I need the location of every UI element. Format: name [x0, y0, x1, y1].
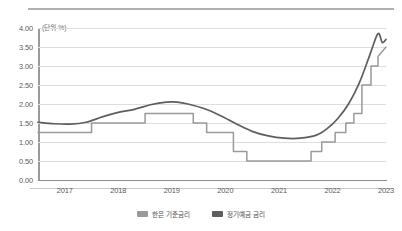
x-tick-label: 2020 [217, 186, 233, 195]
x-tick-label: 2023 [378, 186, 394, 195]
x-tick-label: 2019 [164, 186, 180, 195]
legend-label: 한은 기준금리 [152, 209, 190, 219]
plot-area [38, 28, 386, 180]
x-tick-label: 2018 [110, 186, 126, 195]
legend-label: 정기예금 금리 [227, 209, 265, 219]
y-tick-label: 0.50 [19, 157, 33, 166]
x-axis-labels: 2017201820192020202120222023 [0, 186, 402, 202]
series-path [38, 33, 386, 138]
y-axis-labels: 0.000.501.001.502.002.503.003.504.00 [0, 0, 36, 200]
y-tick-label: 2.50 [19, 81, 33, 90]
legend-swatch-icon [137, 211, 148, 217]
legend-item[interactable]: 한은 기준금리 [137, 209, 190, 219]
y-tick-label: 2.00 [19, 100, 33, 109]
series-lines [38, 28, 386, 180]
y-tick-label: 1.00 [19, 138, 33, 147]
series-path [38, 47, 386, 161]
y-tick-label: 4.00 [19, 24, 33, 33]
x-tick-label: 2017 [57, 186, 73, 195]
y-tick-label: 1.50 [19, 119, 33, 128]
legend-swatch-icon [212, 211, 223, 217]
x-tick-label: 2022 [324, 186, 340, 195]
y-tick-label: 3.50 [19, 43, 33, 52]
x-tick-label: 2021 [271, 186, 287, 195]
chart-legend: 한은 기준금리정기예금 금리 [0, 205, 402, 223]
legend-item[interactable]: 정기예금 금리 [212, 209, 265, 219]
gridline [38, 180, 386, 181]
header-divider [28, 8, 394, 10]
y-tick-label: 0.00 [19, 176, 33, 185]
chart-figure: (단위 %) 0.000.501.001.502.002.503.003.504… [0, 0, 402, 231]
y-tick-label: 3.00 [19, 62, 33, 71]
